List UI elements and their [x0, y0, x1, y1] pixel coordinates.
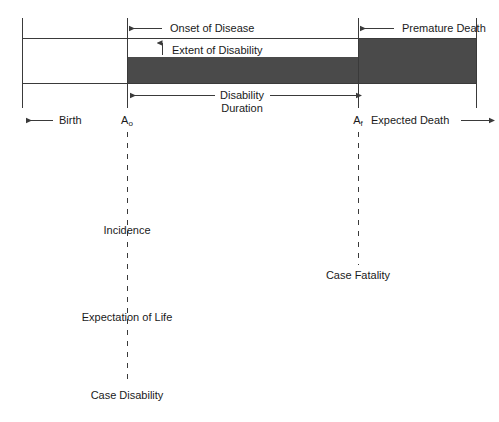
label-af-marker: Af	[353, 114, 363, 128]
label-case-disability: Case Disability	[91, 389, 164, 402]
a0-subscript: o	[128, 119, 132, 128]
disability-duration-line-1: Disability	[220, 89, 264, 101]
label-a0-marker: Ao	[121, 114, 133, 128]
label-disability-duration: Disability Duration	[220, 89, 264, 115]
diagram-canvas: Onset of Disease Extent of Disability Pr…	[0, 0, 499, 422]
label-onset-of-disease: Onset of Disease	[170, 22, 254, 35]
af-subscript: f	[361, 119, 363, 128]
label-expected-death: Expected Death	[371, 114, 449, 127]
label-case-fatality: Case Fatality	[326, 269, 390, 282]
label-premature-death: Premature Death	[402, 22, 486, 35]
premature-death-fill	[358, 38, 477, 83]
disability-extent-fill	[127, 57, 358, 83]
label-incidence: Incidence	[103, 224, 150, 237]
label-extent-of-disability: Extent of Disability	[172, 44, 262, 57]
label-expectation-of-life: Expectation of Life	[82, 311, 173, 324]
disability-duration-line-2: Duration	[221, 102, 263, 114]
label-birth: Birth	[59, 114, 82, 127]
diagram-graphics	[0, 0, 499, 422]
